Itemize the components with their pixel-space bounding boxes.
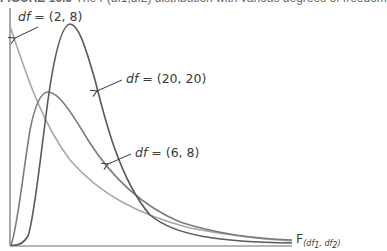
- arrow-df-20-20: [97, 80, 122, 91]
- label-df-20-20: df = (20, 20): [126, 71, 206, 86]
- label-df-6-8: df = (6, 8): [135, 145, 199, 160]
- curve-df-6-8: [11, 92, 292, 245]
- label-df-2-8: df = (2, 8): [18, 9, 82, 24]
- x-axis-label: F(df1, df2): [296, 231, 341, 250]
- curve-df-2-8: [10, 26, 292, 241]
- arrow-df-2-8: [15, 27, 38, 38]
